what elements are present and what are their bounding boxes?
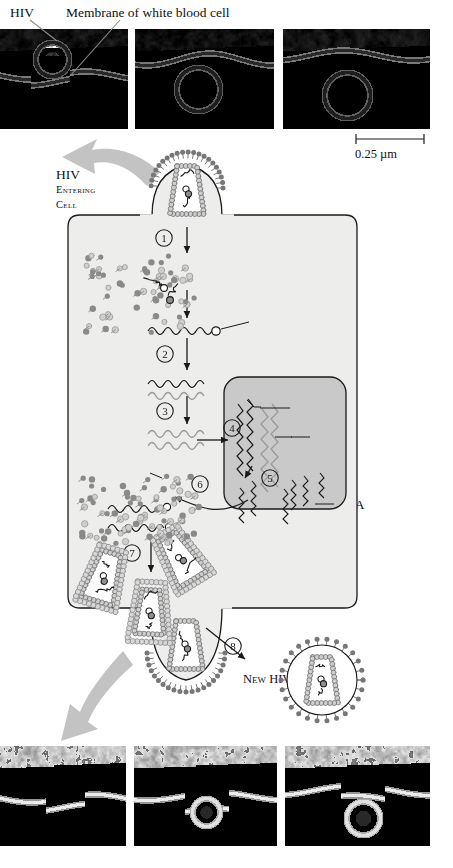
virion-particles-layer [0,0,453,868]
hiv-replication-figure: HIV Membrane of white blood cell 0.25 µm… [0,0,453,868]
